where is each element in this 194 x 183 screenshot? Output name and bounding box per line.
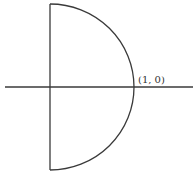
half-disk-contour-diagram: (1, 0) <box>0 0 194 183</box>
point-label-1-0: (1, 0) <box>138 74 165 85</box>
